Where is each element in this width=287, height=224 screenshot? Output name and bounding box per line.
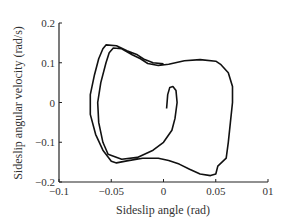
x-tick-label: −0.05 [99,185,125,197]
x-tick-label: 01 [263,185,274,197]
y-axis-title: Sideslip angular velocity (rad/s) [11,26,25,180]
plot-area [90,45,232,176]
y-tick-label: 0.2 [41,17,55,29]
phase-plot: −0.1−0.0500.0501−0.2−0.100.10.2 Sideslip… [0,0,287,224]
x-tick-label: 0.05 [206,185,226,197]
y-tick-label: 0.1 [41,57,55,69]
y-tick-label: 0 [50,97,56,109]
x-axis-title: Sideslip angle (rad) [116,203,210,217]
y-tick-label: −0.2 [35,176,55,188]
trajectory-line [90,45,232,176]
ticks: −0.1−0.0500.0501−0.2−0.100.10.2 [35,17,273,197]
x-tick-label: 0 [161,185,167,197]
y-tick-label: −0.1 [35,136,55,148]
